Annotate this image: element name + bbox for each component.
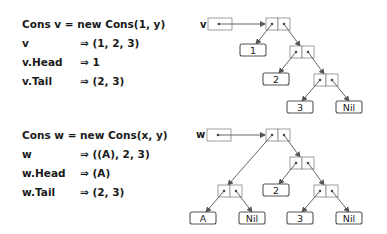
cons-cell bbox=[290, 46, 314, 58]
leaf-value: 3 bbox=[297, 102, 303, 113]
cons-cell bbox=[266, 18, 290, 30]
leaf-value: 1 bbox=[250, 45, 256, 56]
cons-cell bbox=[266, 129, 290, 141]
leaf-value: Nil bbox=[343, 213, 355, 224]
cons-cell bbox=[290, 157, 314, 169]
var-label-w: w bbox=[196, 129, 205, 140]
leaf-value: Nil bbox=[343, 102, 355, 113]
cons-cell bbox=[314, 74, 338, 86]
diagram-v: v 1 2 bbox=[200, 18, 362, 113]
cons-cell bbox=[314, 185, 338, 197]
var-label-v: v bbox=[200, 19, 207, 30]
cons-cell bbox=[218, 185, 242, 197]
leaf-value: 2 bbox=[273, 185, 279, 196]
cons-diagrams: v 1 2 bbox=[0, 0, 387, 234]
leaf-value: Nil bbox=[246, 213, 258, 224]
leaf-value: 2 bbox=[273, 74, 279, 85]
leaf-value: 3 bbox=[297, 213, 303, 224]
leaf-value: A bbox=[200, 213, 207, 224]
diagram-w: w A Nil 2 bbox=[190, 129, 362, 224]
